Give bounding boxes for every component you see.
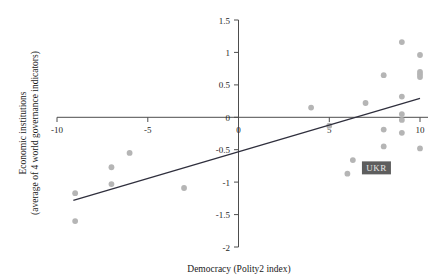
x-tick-label-3: 0	[236, 125, 241, 135]
data-point	[399, 39, 405, 45]
chart-background	[0, 0, 448, 278]
x-axis-title: Democracy (Polity2 index)	[187, 264, 290, 275]
data-point	[181, 185, 187, 191]
data-point	[417, 52, 423, 58]
x-tick-label-1: -10	[51, 125, 63, 135]
data-point	[399, 94, 405, 100]
data-point	[308, 105, 314, 111]
data-point	[399, 111, 405, 117]
y-tick-label-4: 0	[226, 113, 231, 123]
y-axis-title-line1: Economic institutions	[18, 91, 28, 174]
x-tick-label-5: 10	[416, 125, 426, 135]
data-point	[109, 164, 115, 170]
data-point	[381, 127, 387, 133]
data-point	[345, 171, 351, 177]
y-tick-label-7: -1.5	[216, 210, 231, 220]
data-point	[381, 144, 387, 150]
data-point	[381, 72, 387, 78]
annotation-ukr[interactable]: UKR	[362, 161, 391, 174]
data-point	[399, 130, 405, 136]
data-point	[417, 74, 423, 80]
data-point	[363, 100, 369, 106]
x-tick-label-2: -5	[144, 125, 152, 135]
chart-svg: 1.5 1 0.5 0 -0.5 -1 -1.5 -2 -10 -5 0 5 1…	[0, 0, 448, 278]
y-tick-label-6: -1	[223, 178, 231, 188]
data-point	[72, 218, 78, 224]
y-tick-label-8: -2	[223, 243, 231, 253]
scatter-chart-figure: 1.5 1 0.5 0 -0.5 -1 -1.5 -2 -10 -5 0 5 1…	[0, 0, 448, 278]
y-tick-label-3: 0.5	[219, 80, 231, 90]
y-tick-label-5: -0.5	[216, 145, 231, 155]
data-point	[399, 117, 405, 123]
data-point	[109, 181, 115, 187]
data-point	[127, 150, 133, 156]
y-axis-title-line2: (average of 4 world governance indicator…	[30, 51, 41, 215]
data-point	[350, 157, 356, 163]
data-point	[72, 190, 78, 196]
annotation-ukr-label: UKR	[366, 163, 386, 173]
y-tick-label-1: 1.5	[219, 16, 231, 26]
data-point	[417, 146, 423, 152]
y-tick-label-2: 1	[226, 48, 231, 58]
